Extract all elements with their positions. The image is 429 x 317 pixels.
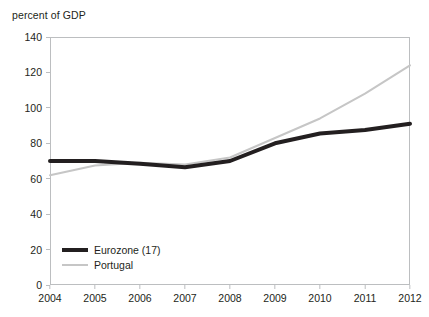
x-tick-label: 2010	[308, 292, 331, 304]
x-tick-label: 2005	[83, 292, 106, 304]
x-tick-label: 2006	[128, 292, 151, 304]
y-tick-label: 40	[30, 208, 42, 220]
x-tick-mark	[94, 285, 95, 289]
legend-item-eurozone-17: Eurozone (17)	[62, 243, 161, 256]
legend-swatch	[62, 248, 88, 252]
y-tick-40: 40	[30, 208, 50, 220]
y-tick-label: 140	[24, 31, 42, 43]
x-tick-2011: 2011	[354, 285, 377, 304]
x-tick-label: 2011	[354, 292, 377, 304]
x-tick-2010: 2010	[308, 285, 331, 304]
plot-area: 020406080100120140 200420052006200720082…	[50, 37, 410, 285]
y-tick-100: 100	[24, 102, 50, 114]
y-tick-140: 140	[24, 31, 50, 43]
series-line-eurozone-17	[50, 124, 410, 167]
x-tick-label: 2007	[173, 292, 196, 304]
x-tick-2009: 2009	[263, 285, 286, 304]
legend-swatch	[62, 264, 88, 266]
y-tick-label: 100	[24, 102, 42, 114]
x-tick-2005: 2005	[83, 285, 106, 304]
legend-item-portugal: Portugal	[62, 258, 161, 271]
y-tick-label: 80	[30, 137, 42, 149]
x-tick-mark	[184, 285, 185, 289]
x-tick-label: 2004	[38, 292, 61, 304]
y-tick-20: 20	[30, 244, 50, 256]
legend-label: Eurozone (17)	[94, 244, 161, 256]
x-tick-label: 2009	[263, 292, 286, 304]
chart-legend: Eurozone (17)Portugal	[62, 243, 161, 271]
x-tick-mark	[139, 285, 140, 289]
y-tick-label: 120	[24, 66, 42, 78]
x-tick-mark	[274, 285, 275, 289]
x-tick-2008: 2008	[218, 285, 241, 304]
y-axis-title: percent of GDP	[12, 9, 86, 21]
x-tick-2006: 2006	[128, 285, 151, 304]
y-tick-120: 120	[24, 66, 50, 78]
series-line-portugal	[50, 65, 410, 175]
y-tick-60: 60	[30, 173, 50, 185]
x-tick-label: 2008	[218, 292, 241, 304]
x-tick-2012: 2012	[398, 285, 421, 304]
y-tick-80: 80	[30, 137, 50, 149]
x-tick-mark	[229, 285, 230, 289]
x-tick-mark	[319, 285, 320, 289]
y-tick-label: 60	[30, 173, 42, 185]
y-tick-label: 20	[30, 244, 42, 256]
x-tick-label: 2012	[398, 292, 421, 304]
x-tick-mark	[49, 285, 50, 289]
x-tick-2004: 2004	[38, 285, 61, 304]
x-tick-2007: 2007	[173, 285, 196, 304]
x-tick-mark	[365, 285, 366, 289]
chart-figure: percent of GDP 020406080100120140 200420…	[0, 0, 429, 317]
legend-label: Portugal	[94, 259, 133, 271]
x-tick-mark	[409, 285, 410, 289]
